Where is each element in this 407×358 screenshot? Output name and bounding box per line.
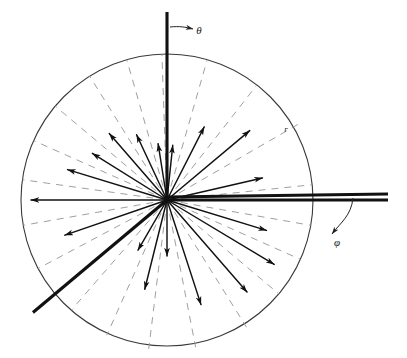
dashed-ray [90, 76, 160, 188]
dashed-ray [180, 206, 301, 260]
phi-arc-arrow [332, 198, 353, 234]
dashed-ray [107, 213, 162, 335]
polar-vector-figure: θ φ r [0, 0, 407, 358]
dashed-ray [179, 124, 299, 193]
dashed-ray [127, 60, 163, 187]
dashed-ray [149, 214, 166, 349]
dashed-ray [176, 85, 257, 189]
theta-label: θ [196, 24, 202, 36]
phi-axis [167, 194, 388, 197]
vector-arrow [167, 127, 204, 200]
vector-arrow [167, 200, 201, 305]
dashed-ray [171, 60, 207, 187]
dashed-ray [174, 212, 246, 327]
dashed-ray [23, 202, 153, 225]
dashed-ray [170, 214, 196, 348]
dashed-ray [181, 202, 311, 225]
vector-arrow [167, 200, 247, 292]
phi-label: φ [334, 236, 340, 248]
vector-group [31, 127, 388, 313]
vector-arrow [65, 200, 167, 235]
dashed-ray [22, 180, 153, 198]
vector-arrow [68, 170, 167, 200]
dashed-ray [55, 106, 156, 191]
axis-ray [33, 200, 167, 312]
radius-label: r [284, 124, 288, 134]
figure-canvas: θ φ r [0, 0, 407, 358]
vector-arrow [167, 131, 250, 200]
dashed-ray [34, 141, 155, 195]
dashed-ray [71, 211, 158, 311]
theta-arc-arrow [170, 27, 193, 29]
